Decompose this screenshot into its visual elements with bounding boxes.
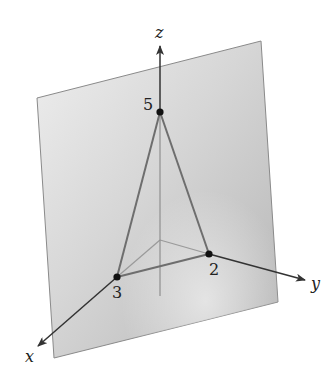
y-intercept-label: 2 bbox=[209, 260, 219, 279]
z-axis-label: z bbox=[154, 23, 164, 42]
plane bbox=[37, 41, 278, 358]
z-intercept-label: 5 bbox=[143, 95, 153, 114]
3d-plane-diagram: z x y 5 3 2 bbox=[0, 0, 332, 381]
z-intercept-point bbox=[156, 108, 163, 115]
x-axis-label: x bbox=[25, 347, 34, 366]
x-intercept-label: 3 bbox=[112, 283, 122, 302]
y-axis-label: y bbox=[310, 274, 321, 293]
x-intercept-point bbox=[113, 273, 120, 280]
y-intercept-point bbox=[205, 250, 212, 257]
